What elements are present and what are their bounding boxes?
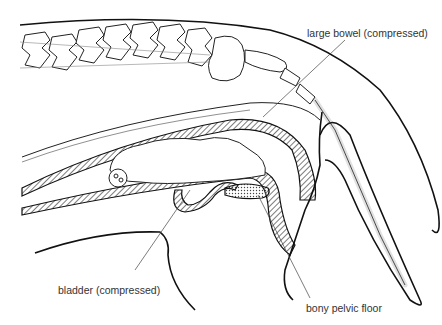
spine bbox=[22, 22, 315, 104]
label-pelvic-floor: bony pelvic floor bbox=[306, 302, 382, 314]
diagram-canvas: large bowel (compressed) bladder (compre… bbox=[0, 0, 442, 325]
label-bladder: bladder (compressed) bbox=[58, 284, 160, 296]
sacrum bbox=[209, 36, 245, 81]
label-large-bowel: large bowel (compressed) bbox=[307, 27, 428, 39]
leader-large-bowel bbox=[263, 40, 345, 117]
thigh-outline bbox=[35, 232, 195, 310]
leader-bladder bbox=[135, 190, 190, 270]
pelvic-floor bbox=[225, 184, 269, 199]
anatomy-drawing bbox=[0, 0, 442, 325]
